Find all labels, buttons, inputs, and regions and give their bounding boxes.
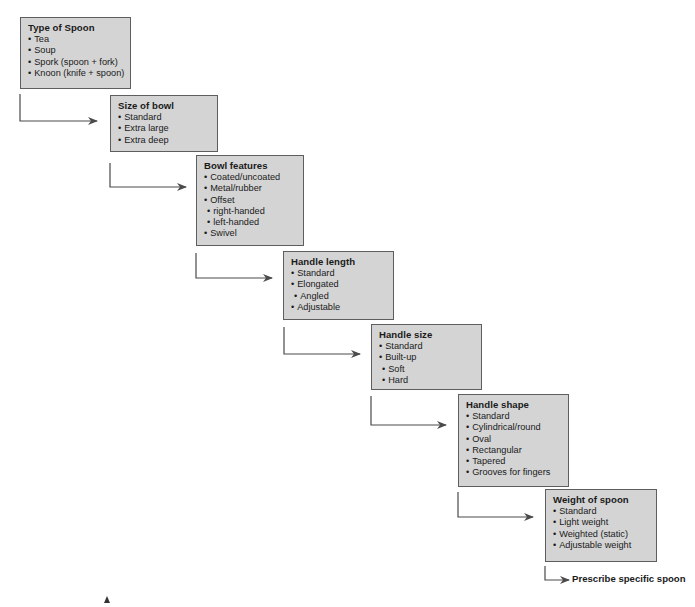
option-item: Grooves for fingers [466, 467, 562, 478]
step-title: Weight of spoon [553, 494, 650, 505]
option-item: Knoon (knife + spoon) [28, 68, 124, 79]
connector-arrow-3 [196, 253, 272, 278]
connector-arrow-6 [458, 492, 533, 517]
option-item: Coated/uncoated [204, 172, 297, 183]
option-item: Cylindrical/round [466, 422, 562, 433]
option-item: Light weight [553, 517, 650, 528]
connector-arrow-final [545, 566, 569, 580]
option-item: Weighted (static) [553, 529, 650, 540]
step-title: Handle size [379, 329, 475, 340]
step-box-bowl-features: Bowl features Coated/uncoated Metal/rubb… [196, 155, 304, 246]
step-title: Type of Spoon [28, 22, 124, 33]
option-item: Standard [466, 411, 562, 422]
option-item: Extra deep [118, 135, 211, 146]
option-item: Adjustable [291, 302, 387, 313]
option-item: Tapered [466, 456, 562, 467]
step-title: Handle shape [466, 399, 562, 410]
step-options: Tea Soup Spork (spoon + fork) Knoon (kni… [28, 34, 124, 79]
option-item: Built-up [379, 352, 475, 363]
step-box-handle-shape: Handle shape Standard Cylindrical/round … [458, 394, 569, 487]
option-item: Spork (spoon + fork) [28, 57, 124, 68]
option-item: Adjustable weight [553, 540, 650, 551]
option-item: Soup [28, 45, 124, 56]
connector-arrow-4 [284, 327, 360, 354]
connector-arrow-5 [371, 396, 446, 425]
step-options: Standard Light weight Weighted (static) … [553, 506, 650, 551]
step-title: Handle length [291, 256, 387, 267]
option-item: Offset [204, 195, 297, 206]
option-item: Rectangular [466, 445, 562, 456]
step-box-weight-of-spoon: Weight of spoon Standard Light weight We… [545, 489, 657, 562]
step-options: Standard Extra large Extra deep [118, 112, 211, 146]
triangle-marker-icon [104, 596, 110, 603]
sub-option-item: Soft [379, 364, 475, 375]
step-box-size-of-bowl: Size of bowl Standard Extra large Extra … [110, 95, 218, 152]
step-options: Standard Built-up Soft Hard [379, 341, 475, 386]
step-box-handle-size: Handle size Standard Built-up Soft Hard [371, 324, 482, 390]
option-item: Standard [379, 341, 475, 352]
step-options: Standard Cylindrical/round Oval Rectangu… [466, 411, 562, 479]
option-item: Elongated [291, 279, 387, 290]
option-item: Metal/rubber [204, 183, 297, 194]
step-box-type-of-spoon: Type of Spoon Tea Soup Spork (spoon + fo… [20, 17, 131, 89]
option-item: Standard [118, 112, 211, 123]
step-options: Coated/uncoated Metal/rubber Offset righ… [204, 172, 297, 240]
option-item: Extra large [118, 123, 211, 134]
option-item: Standard [291, 268, 387, 279]
connector-arrow-2 [110, 163, 186, 187]
option-item: Oval [466, 434, 562, 445]
sub-option-item: left-handed [204, 217, 297, 228]
sub-option-item: Angled [291, 291, 387, 302]
step-title: Bowl features [204, 160, 297, 171]
step-options: Standard Elongated Angled Adjustable [291, 268, 387, 313]
sub-option-item: Hard [379, 375, 475, 386]
option-item: Standard [553, 506, 650, 517]
connector-arrow-1 [20, 94, 97, 121]
step-box-handle-length: Handle length Standard Elongated Angled … [283, 251, 394, 320]
step-title: Size of bowl [118, 100, 211, 111]
sub-option-item: right-handed [204, 206, 297, 217]
option-item: Tea [28, 34, 124, 45]
final-outcome-label: Prescribe specific spoon [572, 573, 686, 584]
option-item: Swivel [204, 228, 297, 239]
